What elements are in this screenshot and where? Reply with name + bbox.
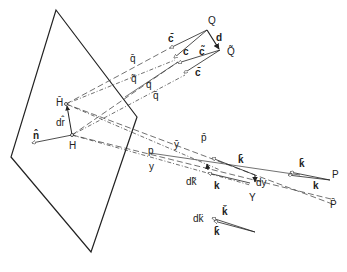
label-c-bar2: c̄ [195,67,201,78]
label-d: d [216,32,222,43]
label-k-left: k [214,180,220,191]
q-rays [66,48,185,135]
label-q: q [146,79,152,90]
geometry-diagram: Q Q̃ d c̄ c c̃ c̄ q̄ q̃ q q̄ H̄ dr̂ n̂ H… [0,0,347,272]
label-c-bar: c̄ [168,33,174,44]
label-dy: dy [256,177,267,188]
k-vectors [207,158,330,232]
label-y: y [149,161,154,172]
label-q-bar: q̄ [130,53,136,64]
label-P-prime: P̄ [330,198,337,210]
label-H: H [69,140,76,151]
label-k-bar-right: k̄ [299,158,305,169]
label-dk-double: dk̈ [193,213,205,224]
label-k-bar-top: k̄ [238,154,244,165]
label-dk-tilde: dk̃ [186,176,198,187]
label-Q-tilde: Q̃ [227,45,235,57]
label-P: P [332,169,339,180]
label-q-bar2: q̄ [153,90,159,101]
label-H-bar: H̄ [56,96,63,108]
label-k-right: k [313,180,319,191]
label-Y: Y [249,192,256,203]
label-p-bar: p̄ [201,132,207,143]
label-p: p [148,145,154,156]
label-c: c [183,46,189,57]
label-dr: dr̂ [56,115,66,128]
label-k-bar-bottom: k̄ [214,226,220,237]
p-rays [66,104,335,205]
plane [11,10,137,252]
label-q-tilde: q̃ [131,73,137,84]
label-c-tilde: c̃ [199,45,205,57]
label-n: n̂ [33,129,39,141]
label-Q: Q [208,15,216,26]
label-k-check: ǩ [222,205,228,217]
label-y-bar: ȳ [174,139,179,150]
dr-vector [67,106,72,135]
